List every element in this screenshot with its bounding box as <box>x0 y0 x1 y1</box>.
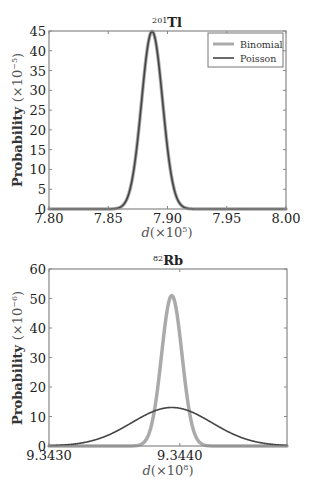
x-tick-label: 7.95 <box>212 211 241 226</box>
plot-area <box>49 296 287 446</box>
y-axis-label: Probability (×10−5) <box>10 53 25 187</box>
axis-ticks: 01020304050609.34309.3440 <box>26 262 287 463</box>
chart-title: 201Tl <box>152 15 182 30</box>
legend-label-poisson: Poisson <box>240 53 276 64</box>
x-tick-label: 7.90 <box>153 211 182 226</box>
y-tick-label: 10 <box>29 162 46 177</box>
y-tick-label: 5 <box>38 182 46 197</box>
y-tick-label: 40 <box>29 44 46 59</box>
y-tick-label: 25 <box>29 103 46 118</box>
y-tick-label: 45 <box>29 24 46 39</box>
y-tick-label: 20 <box>29 380 46 395</box>
x-axis-label: d(×105) <box>141 225 192 240</box>
y-tick-label: 50 <box>29 292 46 307</box>
legend-label-binomial: Binomial <box>240 39 283 50</box>
x-tick-label: 9.3440 <box>157 448 203 463</box>
x-tick-label: 7.80 <box>35 211 64 226</box>
x-tick-label: 7.85 <box>94 211 123 226</box>
y-tick-label: 35 <box>29 64 46 79</box>
figure: 201Tl 0510152025303540457.807.857.907.95… <box>0 0 310 495</box>
y-tick-label: 15 <box>29 143 46 158</box>
series-binomial <box>49 296 287 446</box>
series-poisson <box>49 408 287 446</box>
chart-tl201: 201Tl 0510152025303540457.807.857.907.95… <box>10 15 300 240</box>
legend: Binomial Poisson <box>208 33 283 67</box>
x-tick-label: 8.00 <box>272 211 301 226</box>
y-tick-label: 10 <box>29 410 46 425</box>
y-axis-label: Probability (×10−6) <box>10 291 25 425</box>
y-tick-label: 30 <box>29 351 46 366</box>
y-tick-label: 20 <box>29 123 46 138</box>
chart-rb82: 82Rb 01020304050609.34309.3440 d(×108) P… <box>10 253 287 478</box>
y-tick-label: 40 <box>29 321 46 336</box>
axes-frame <box>49 269 287 446</box>
x-tick-label: 9.3430 <box>26 448 72 463</box>
y-tick-label: 60 <box>29 262 46 277</box>
chart-title: 82Rb <box>153 253 183 268</box>
x-axis-label: d(×108) <box>142 463 193 478</box>
y-tick-label: 30 <box>29 83 46 98</box>
